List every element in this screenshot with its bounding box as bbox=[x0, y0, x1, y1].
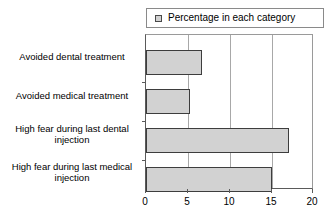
category-label-line: High fear during last dental bbox=[1, 123, 143, 134]
x-axis-tick bbox=[187, 189, 188, 193]
legend-swatch-square-icon bbox=[155, 15, 162, 22]
y-axis-tick bbox=[142, 160, 146, 161]
x-axis-label-20: 20 bbox=[300, 196, 324, 207]
bar-avoided-medical-treatment bbox=[146, 89, 190, 114]
x-axis-label-15: 15 bbox=[259, 196, 283, 207]
plot-area bbox=[145, 34, 313, 189]
category-label-line: High fear during last medical bbox=[1, 161, 143, 172]
x-axis-label-5: 5 bbox=[175, 196, 199, 207]
legend-label: Percentage in each category bbox=[168, 13, 295, 23]
bar-chart: Percentage in each category Avoided dent… bbox=[0, 0, 333, 220]
category-label-line: injection bbox=[1, 134, 143, 145]
gridline-15 bbox=[272, 35, 273, 188]
x-axis-label-0: 0 bbox=[133, 196, 157, 207]
x-axis-tick bbox=[271, 189, 272, 193]
x-axis-tick bbox=[229, 189, 230, 193]
chart-legend: Percentage in each category bbox=[146, 8, 324, 28]
category-label: High fear during last medical injection bbox=[1, 161, 143, 183]
x-axis-tick bbox=[312, 189, 313, 193]
bar-high-fear-medical-injection bbox=[146, 167, 272, 192]
y-axis-tick bbox=[142, 82, 146, 83]
gridline-10 bbox=[230, 35, 231, 188]
category-label-line: Avoided medical treatment bbox=[1, 90, 143, 101]
bar-high-fear-dental-injection bbox=[146, 128, 289, 153]
y-axis-tick bbox=[142, 121, 146, 122]
category-label-line: Avoided dental treatment bbox=[1, 51, 143, 62]
category-label: High fear during last dental injection bbox=[1, 123, 143, 145]
category-label: Avoided dental treatment bbox=[1, 51, 143, 62]
x-axis-tick bbox=[145, 189, 146, 193]
category-label: Avoided medical treatment bbox=[1, 90, 143, 101]
category-label-line: injection bbox=[1, 172, 143, 183]
x-axis-label-10: 10 bbox=[217, 196, 241, 207]
bar-avoided-dental-treatment bbox=[146, 50, 202, 75]
